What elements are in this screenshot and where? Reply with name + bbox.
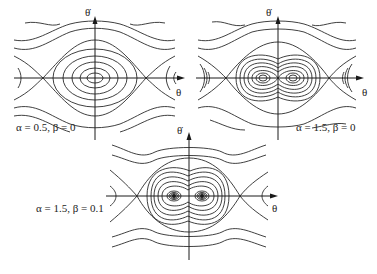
panel-1-y-axis-label: θ̇ [85,6,90,18]
panel-3-x-axis-label: θ [272,202,277,214]
panel-2-y-axis-label: θ̇ [266,6,271,18]
panel-2-caption: α = 1.5, β = 0 [296,121,356,133]
panel-1-x-axis-label: θ [176,86,181,98]
panel-1-caption: α = 0.5, β = 0 [16,121,76,133]
panel-3-y-axis-label: θ̇ [177,124,182,136]
panel-3-phase-portrait [106,132,278,260]
panel-3-caption: α = 1.5, β = 0.1 [36,202,104,214]
phase-portraits-figure [0,0,377,274]
panel-2-x-axis-label: θ [362,86,367,98]
